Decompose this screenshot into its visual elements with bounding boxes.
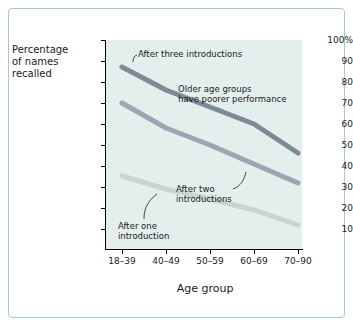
annotation-one-line-2: introduction [118,231,169,241]
annotation-older-line-1: Older age groups [178,84,287,94]
annotation-older-line-2: have poorer performance [178,94,287,104]
chart-figure: Percentage of names recalled 100% 90 80 … [0,0,353,326]
annotation-two-line-1: After two [176,184,232,194]
leader-line-after-one [144,194,157,219]
annotation-older-age-groups: Older age groups have poorer performance [178,84,287,104]
annotation-two-line-2: introductions [176,194,232,204]
series-line-after-three-introductions [122,67,298,153]
leader-line-after-two [233,172,246,189]
series-line-after-two-introductions [122,103,298,183]
annotation-after-three-introductions: After three introductions [138,49,242,59]
annotation-after-one-introduction: After one introduction [118,221,169,241]
leader-line-after-three [133,55,137,62]
annotation-one-line-1: After one [118,221,169,231]
annotation-after-two-introductions: After two introductions [176,184,232,204]
